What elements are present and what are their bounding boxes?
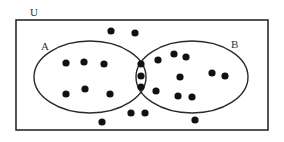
element-dot-a-only bbox=[62, 90, 69, 97]
element-dot-b-only bbox=[182, 53, 189, 60]
element-dot-neither bbox=[141, 109, 148, 116]
set-a-ellipse bbox=[34, 41, 146, 113]
element-dot-neither bbox=[127, 109, 134, 116]
element-dot-a-and-b bbox=[137, 60, 144, 67]
element-dot-b-only bbox=[221, 72, 228, 79]
element-dot-b-only bbox=[152, 87, 159, 94]
set-a-label: A bbox=[41, 40, 49, 52]
element-dot-b-only bbox=[170, 50, 177, 57]
element-dot-a-only bbox=[106, 90, 113, 97]
venn-diagram: U A B bbox=[0, 0, 284, 142]
element-dot-b-only bbox=[174, 92, 181, 99]
element-dot-a-and-b bbox=[137, 83, 144, 90]
element-dot-b-only bbox=[176, 73, 183, 80]
element-dot-a-and-b bbox=[137, 72, 144, 79]
universe-label: U bbox=[30, 6, 38, 18]
element-dot-a-only bbox=[100, 60, 107, 67]
element-dot-b-only bbox=[208, 69, 215, 76]
element-dot-b-only bbox=[188, 93, 195, 100]
element-dot-a-only bbox=[81, 85, 88, 92]
set-b-label: B bbox=[231, 38, 238, 50]
element-dot-b-only bbox=[154, 56, 161, 63]
element-dot-a-only bbox=[62, 59, 69, 66]
element-dot-neither bbox=[98, 118, 105, 125]
set-b-ellipse bbox=[136, 41, 248, 113]
element-dot-a-only bbox=[80, 58, 87, 65]
element-dot-neither bbox=[107, 27, 114, 34]
element-dot-neither bbox=[131, 29, 138, 36]
element-dot-neither bbox=[191, 116, 198, 123]
